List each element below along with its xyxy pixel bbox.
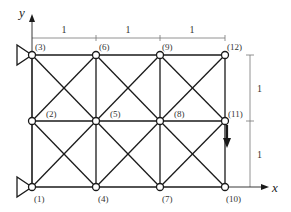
node-label-9: (9) — [162, 42, 173, 52]
node-10 — [222, 184, 229, 191]
dim-label-h2: 1 — [126, 24, 131, 35]
node-label-4: (4) — [98, 194, 109, 204]
x-axis-arrow-icon — [261, 184, 269, 190]
node-label-1: (1) — [34, 194, 45, 204]
node-12 — [222, 52, 229, 59]
down-arrow-icon — [223, 138, 231, 148]
node-label-6: (6) — [99, 42, 110, 52]
node-3 — [29, 52, 36, 59]
node-label-11: (11) — [228, 109, 243, 119]
load-arrow-node-11 — [223, 125, 231, 148]
y-axis-label: y — [17, 5, 25, 20]
dim-label-h3: 1 — [190, 24, 195, 35]
axes: y x — [17, 5, 278, 195]
node-label-10: (10) — [226, 194, 241, 204]
node-1 — [29, 184, 36, 191]
node-label-2: (2) — [46, 109, 57, 119]
node-label-8: (8) — [174, 109, 185, 119]
node-labels: (1) (2) (3) (4) (5) (6) (7) (8) (9) (10)… — [34, 42, 243, 204]
y-axis-arrow-icon — [29, 14, 35, 22]
node-5 — [93, 118, 100, 125]
truss-members — [32, 55, 225, 187]
top-dimension: 1 1 1 — [32, 24, 225, 41]
node-7 — [157, 184, 164, 191]
node-2 — [29, 118, 36, 125]
node-4 — [93, 184, 100, 191]
node-label-7: (7) — [162, 194, 173, 204]
dim-label-h1: 1 — [62, 24, 67, 35]
x-axis-label: x — [271, 180, 278, 195]
node-label-12: (12) — [227, 42, 242, 52]
dim-label-v2: 1 — [257, 149, 262, 160]
node-label-5: (5) — [110, 109, 121, 119]
right-dimension: 1 1 — [246, 55, 262, 187]
node-label-3: (3) — [35, 42, 46, 52]
node-6 — [93, 52, 100, 59]
truss-diagram: 1 1 1 1 1 y x — [0, 0, 291, 212]
dim-label-v1: 1 — [257, 83, 262, 94]
node-9 — [157, 52, 164, 59]
node-8 — [157, 118, 164, 125]
